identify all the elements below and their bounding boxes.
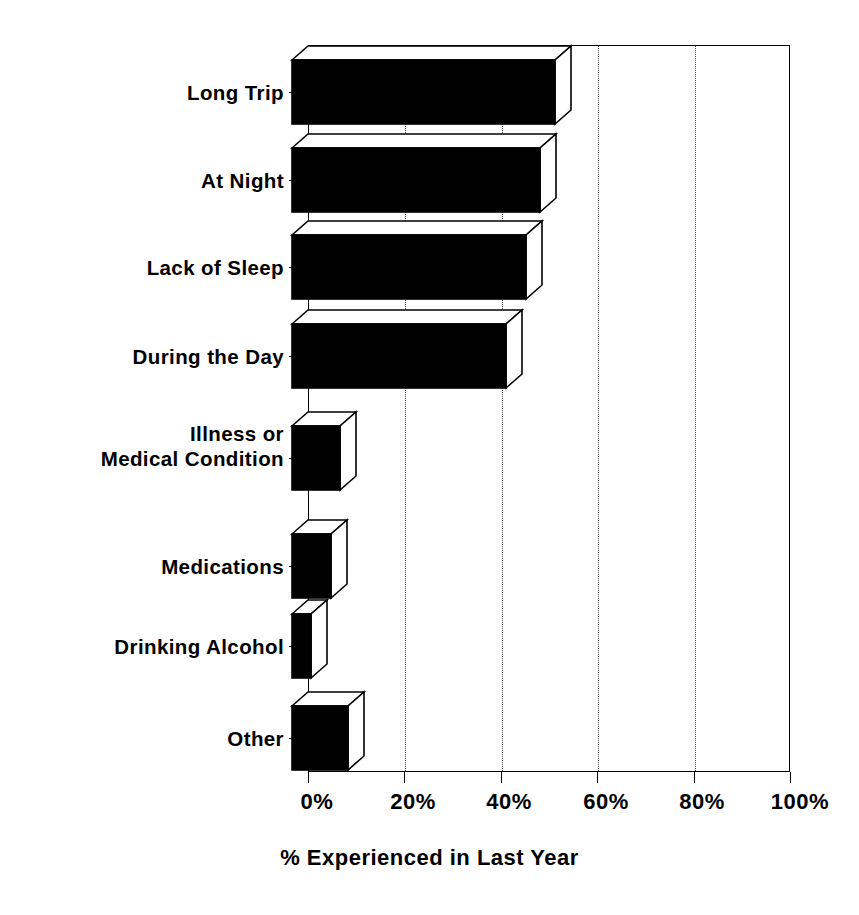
x-tick-20 (404, 772, 405, 783)
y-tick-other (289, 738, 308, 739)
bar-during-the-day[interactable] (292, 310, 592, 406)
bar-long-trip[interactable] (292, 46, 592, 142)
y-label-lack-of-sleep: Lack of Sleep (147, 255, 284, 280)
bar-chart: Long Trip At Night Lack of Sleep During … (0, 0, 859, 915)
y-tick-at-night (289, 180, 308, 181)
gridline-60 (598, 46, 599, 771)
bar-lack-of-sleep[interactable] (292, 221, 592, 317)
x-tick-100 (790, 772, 791, 783)
y-label-drinking-alcohol: Drinking Alcohol (114, 634, 284, 659)
y-tick-medications (289, 566, 308, 567)
x-tick-label-40: 40% (486, 789, 532, 815)
x-tick-80 (694, 772, 695, 783)
y-label-during-the-day: During the Day (133, 344, 284, 369)
y-label-at-night: At Night (201, 168, 284, 193)
y-tick-lack-of-sleep (289, 267, 308, 268)
y-label-medications: Medications (161, 554, 284, 579)
x-tick-label-20: 20% (390, 789, 436, 815)
y-tick-long-trip (289, 92, 308, 93)
y-axis-labels: Long Trip At Night Lack of Sleep During … (0, 0, 284, 915)
y-label-illness-or-medical-condition: Illness or Medical Condition (101, 421, 284, 471)
x-tick-label-60: 60% (583, 789, 629, 815)
x-axis-title: % Experienced in Last Year (0, 845, 859, 871)
bar-at-night[interactable] (292, 134, 592, 230)
x-tick-label-0: 0% (301, 789, 334, 815)
gridline-80 (695, 46, 696, 771)
y-tick-drinking-alcohol (289, 646, 308, 647)
bar-illness-or-medical-condition[interactable] (292, 412, 452, 508)
bar-other[interactable] (292, 692, 452, 788)
y-label-other: Other (227, 726, 284, 751)
x-tick-label-100: 100% (771, 789, 829, 815)
x-tick-0 (308, 772, 309, 783)
bar-drinking-alcohol[interactable] (292, 600, 452, 696)
x-tick-label-80: 80% (679, 789, 725, 815)
x-tick-40 (501, 772, 502, 783)
y-tick-illness-or-medical-condition (289, 458, 308, 459)
y-tick-during-the-day (289, 356, 308, 357)
x-tick-60 (597, 772, 598, 783)
y-label-long-trip: Long Trip (187, 80, 284, 105)
